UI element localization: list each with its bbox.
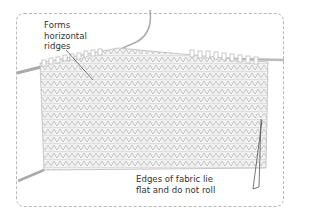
label-forms-ridges: Forms horizontal ridges xyxy=(44,20,87,52)
garter-fabric xyxy=(40,48,268,170)
label-line: ridges xyxy=(44,41,87,52)
label-line: Edges of fabric lie xyxy=(136,174,215,185)
label-line: horizontal xyxy=(44,31,87,42)
label-edges-flat: Edges of fabric lie flat and do not roll xyxy=(136,174,215,195)
label-line: flat and do not roll xyxy=(136,185,215,196)
label-line: Forms xyxy=(44,20,87,31)
